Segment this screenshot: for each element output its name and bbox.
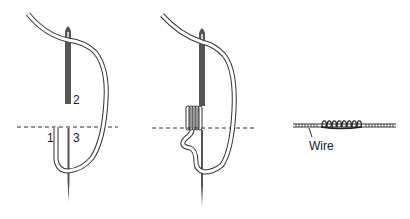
step-3-label: 3	[73, 131, 80, 145]
needle-shaft-lower-icon	[201, 130, 203, 206]
needle-shaft-lower-icon	[68, 128, 70, 202]
wire-pointer-line	[309, 128, 312, 137]
thread-wraps-icon	[186, 106, 202, 130]
panel-2	[152, 15, 255, 206]
thread-icon	[162, 15, 234, 172]
diagram-svg: 2 1 3	[0, 0, 410, 219]
step-1-label: 1	[47, 131, 54, 145]
panel-1: 2 1 3	[17, 14, 118, 202]
wire-label: Wire	[309, 139, 334, 153]
bullion-stitch-diagram: 2 1 3	[0, 0, 410, 219]
wire-icon	[293, 124, 396, 127]
panel-3: Wire	[293, 121, 396, 153]
step-2-label: 2	[73, 93, 80, 107]
